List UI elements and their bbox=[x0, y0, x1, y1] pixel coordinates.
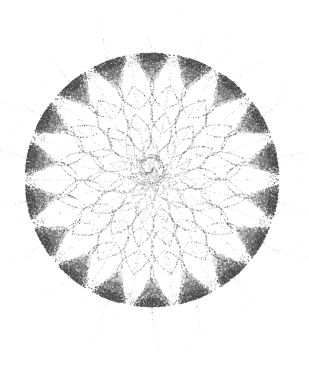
artwork-canvas-container: A pointillist pen-and-ink drawing of a s… bbox=[0, 0, 309, 372]
stipple-succulent-drawing bbox=[0, 0, 309, 372]
